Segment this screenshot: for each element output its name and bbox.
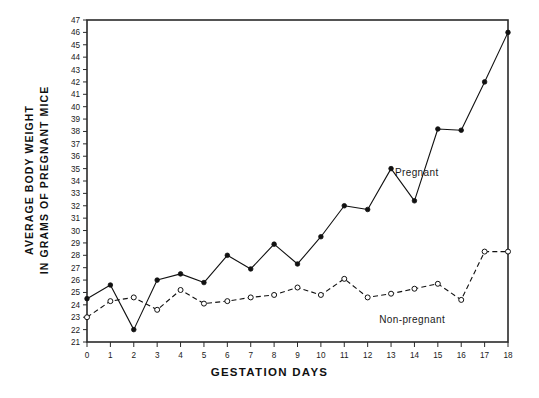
x-tick-label: 8 bbox=[272, 351, 277, 360]
y-tick-label: 22 bbox=[71, 326, 81, 335]
data-point-pregnant bbox=[459, 128, 464, 133]
y-tick-label: 28 bbox=[71, 251, 81, 260]
x-tick-label: 2 bbox=[131, 351, 136, 360]
data-point-pregnant bbox=[131, 327, 136, 332]
y-tick-label: 41 bbox=[71, 90, 81, 99]
x-tick-label: 17 bbox=[480, 351, 490, 360]
y-tick-label: 34 bbox=[71, 177, 81, 186]
series-label-pregnant: Pregnant bbox=[395, 167, 439, 178]
x-tick-label: 5 bbox=[202, 351, 207, 360]
y-tick-label: 24 bbox=[71, 301, 81, 310]
data-point-non-pregnant bbox=[459, 297, 464, 302]
x-tick-label: 10 bbox=[316, 351, 326, 360]
y-tick-label: 45 bbox=[71, 41, 81, 50]
data-point-non-pregnant bbox=[365, 295, 370, 300]
data-point-non-pregnant bbox=[131, 295, 136, 300]
x-tick-label: 12 bbox=[363, 351, 373, 360]
data-point-pregnant bbox=[506, 30, 511, 35]
data-point-non-pregnant bbox=[85, 315, 90, 320]
data-point-pregnant bbox=[319, 234, 324, 239]
data-point-non-pregnant bbox=[155, 307, 160, 312]
y-tick-label: 39 bbox=[71, 115, 81, 124]
y-tick-label: 29 bbox=[71, 239, 81, 248]
chart-figure: AVERAGE BODY WEIGHT IN GRAMS OF PREGNANT… bbox=[0, 0, 539, 398]
x-tick-label: 15 bbox=[433, 351, 443, 360]
x-tick-label: 11 bbox=[340, 351, 349, 360]
y-tick-label: 23 bbox=[71, 313, 81, 322]
data-point-pregnant bbox=[389, 166, 394, 171]
data-point-non-pregnant bbox=[225, 299, 230, 304]
y-tick-label: 42 bbox=[71, 78, 81, 87]
y-tick-label: 46 bbox=[71, 28, 81, 37]
data-point-pregnant bbox=[295, 262, 300, 267]
data-point-pregnant bbox=[365, 207, 370, 212]
data-point-non-pregnant bbox=[248, 295, 253, 300]
x-tick-label: 18 bbox=[503, 351, 513, 360]
x-tick-label: 13 bbox=[387, 351, 397, 360]
y-tick-label: 32 bbox=[71, 202, 81, 211]
y-tick-label: 44 bbox=[71, 53, 81, 62]
x-tick-label: 3 bbox=[155, 351, 160, 360]
y-tick-label: 36 bbox=[71, 152, 81, 161]
y-tick-label: 21 bbox=[71, 338, 81, 347]
data-point-pregnant bbox=[248, 267, 253, 272]
data-point-non-pregnant bbox=[108, 299, 113, 304]
series-label-non-pregnant: Non-pregnant bbox=[379, 314, 445, 325]
data-point-non-pregnant bbox=[178, 287, 183, 292]
data-point-pregnant bbox=[155, 278, 160, 283]
x-tick-label: 7 bbox=[248, 351, 253, 360]
data-point-non-pregnant bbox=[412, 286, 417, 291]
data-point-non-pregnant bbox=[295, 285, 300, 290]
y-tick-label: 38 bbox=[71, 127, 81, 136]
data-point-pregnant bbox=[412, 199, 417, 204]
y-tick-label: 25 bbox=[71, 288, 81, 297]
data-point-pregnant bbox=[108, 283, 113, 288]
data-point-non-pregnant bbox=[272, 292, 277, 297]
data-point-pregnant bbox=[342, 203, 347, 208]
plot-area: 2122232425262728293031323334353637383940… bbox=[0, 0, 539, 398]
x-tick-label: 0 bbox=[85, 351, 90, 360]
x-tick-label: 14 bbox=[410, 351, 420, 360]
y-tick-label: 26 bbox=[71, 276, 81, 285]
data-point-pregnant bbox=[436, 127, 441, 132]
data-point-non-pregnant bbox=[389, 291, 394, 296]
x-tick-label: 9 bbox=[295, 351, 300, 360]
data-point-non-pregnant bbox=[482, 249, 487, 254]
data-point-non-pregnant bbox=[506, 249, 511, 254]
y-tick-label: 47 bbox=[71, 16, 81, 25]
data-point-pregnant bbox=[225, 253, 230, 258]
x-axis-label: GESTATION DAYS bbox=[0, 366, 539, 378]
data-point-non-pregnant bbox=[318, 292, 323, 297]
y-tick-label: 40 bbox=[71, 103, 81, 112]
data-point-non-pregnant bbox=[435, 281, 440, 286]
x-tick-label: 6 bbox=[225, 351, 230, 360]
data-point-pregnant bbox=[202, 280, 207, 285]
x-tick-label: 4 bbox=[178, 351, 183, 360]
data-point-pregnant bbox=[85, 296, 90, 301]
x-tick-label: 16 bbox=[457, 351, 467, 360]
data-point-non-pregnant bbox=[342, 276, 347, 281]
y-tick-label: 37 bbox=[71, 140, 81, 149]
y-tick-label: 31 bbox=[71, 214, 81, 223]
y-tick-label: 43 bbox=[71, 66, 81, 75]
x-tick-label: 1 bbox=[108, 351, 113, 360]
data-point-pregnant bbox=[272, 242, 277, 247]
y-tick-label: 35 bbox=[71, 165, 81, 174]
data-point-pregnant bbox=[178, 272, 183, 277]
data-point-pregnant bbox=[482, 80, 487, 85]
y-tick-label: 27 bbox=[71, 264, 81, 273]
y-tick-label: 33 bbox=[71, 189, 81, 198]
data-point-non-pregnant bbox=[201, 301, 206, 306]
y-tick-label: 30 bbox=[71, 227, 81, 236]
